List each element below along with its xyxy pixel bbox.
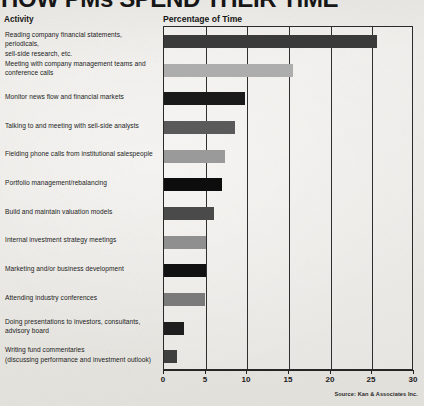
column-header-activity: Activity <box>4 15 34 24</box>
activity-label-10: Attending industry conferences <box>5 293 157 302</box>
column-header-percentage: Percentage of Time <box>163 14 242 24</box>
x-tick-label-30: 30 <box>409 375 418 384</box>
scanned-chart-page: HOW PMs SPEND THEIR TIME Activity Percen… <box>0 0 424 406</box>
activity-label-2: Meeting with company management teams an… <box>5 59 157 78</box>
bar-row-7 <box>164 207 214 220</box>
bar-row-5 <box>164 150 225 163</box>
activity-label-line: Meeting with company management teams an… <box>5 59 157 68</box>
activity-label-7: Build and maintain valuation models <box>5 207 157 216</box>
activity-label-9: Marketing and/or business development <box>5 264 157 273</box>
bar-row-10 <box>164 293 205 306</box>
bar-row-4 <box>164 121 235 134</box>
x-tick-10 <box>246 370 247 374</box>
bar-row-3 <box>164 92 245 105</box>
activity-label-line: advisory board <box>5 326 157 335</box>
activity-label-line: Portfolio management/rebalancing <box>5 178 157 187</box>
x-tick-label-15: 15 <box>284 375 293 384</box>
activity-label-column: Reading company financial statements, pe… <box>0 26 160 370</box>
activity-label-line: Doing presentations to investors, consul… <box>5 317 157 326</box>
activity-label-12: Writing fund commentaries(discussing per… <box>5 345 157 364</box>
activity-label-11: Doing presentations to investors, consul… <box>5 317 157 336</box>
activity-label-5: Fielding phone calls from institutional … <box>5 149 157 158</box>
activity-label-line: Marketing and/or business development <box>5 264 157 273</box>
activity-label-6: Portfolio management/rebalancing <box>5 178 157 187</box>
page-title-band: HOW PMs SPEND THEIR TIME <box>0 0 424 11</box>
activity-label-line: Monitor news flow and financial markets <box>5 92 157 101</box>
x-tick-label-0: 0 <box>161 375 165 384</box>
activity-label-line: conference calls <box>5 68 157 77</box>
activity-label-line: (discussing performance and investment o… <box>5 355 157 364</box>
x-tick-label-5: 5 <box>203 375 207 384</box>
x-tick-0 <box>163 370 164 374</box>
x-tick-label-25: 25 <box>367 375 376 384</box>
x-tick-label-20: 20 <box>326 375 335 384</box>
gridline-10 <box>247 27 248 369</box>
activity-label-line: Attending industry conferences <box>5 293 157 302</box>
bar-row-6 <box>164 178 222 191</box>
activity-label-3: Monitor news flow and financial markets <box>5 92 157 101</box>
activity-label-line: Internal investment strategy meetings <box>5 235 157 244</box>
gridline-5 <box>206 27 207 369</box>
activity-label-line: sell-side research, etc. <box>5 49 157 58</box>
activity-label-line: Build and maintain valuation models <box>5 207 157 216</box>
activity-label-4: Talking to and meeting with sell-side an… <box>5 121 157 130</box>
chart-plot-area <box>163 26 413 370</box>
page-title: HOW PMs SPEND THEIR TIME <box>1 0 338 11</box>
x-tick-30 <box>413 370 414 374</box>
gridline-20 <box>331 27 332 369</box>
x-tick-20 <box>330 370 331 374</box>
x-tick-5 <box>205 370 206 374</box>
activity-label-line: Writing fund commentaries <box>5 345 157 354</box>
activity-label-line: Fielding phone calls from institutional … <box>5 149 157 158</box>
bar-row-1 <box>164 35 377 48</box>
gridline-25 <box>372 27 373 369</box>
bar-row-8 <box>164 236 206 249</box>
activity-label-8: Internal investment strategy meetings <box>5 235 157 244</box>
bar-row-2 <box>164 64 293 77</box>
bar-row-9 <box>164 264 206 277</box>
bar-row-12 <box>164 350 177 363</box>
bar-row-11 <box>164 322 184 335</box>
gridline-15 <box>289 27 290 369</box>
activity-label-line: Talking to and meeting with sell-side an… <box>5 121 157 130</box>
activity-label-line: Reading company financial statements, pe… <box>5 30 157 49</box>
x-tick-15 <box>288 370 289 374</box>
source-credit: Source: Kan & Associates Inc. <box>334 391 418 397</box>
x-tick-label-10: 10 <box>242 375 251 384</box>
x-tick-25 <box>371 370 372 374</box>
activity-label-1: Reading company financial statements, pe… <box>5 30 157 58</box>
